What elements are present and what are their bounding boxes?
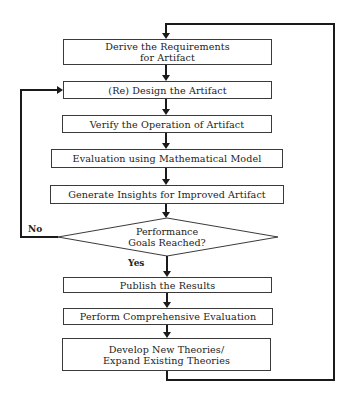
- node-verify-operation: Verify the Operation of Artifact: [62, 115, 272, 133]
- node-derive-line-1: Derive the Requirements: [105, 41, 230, 52]
- node-publish-results: Publish the Results: [63, 277, 272, 293]
- node-verify-line-1: Verify the Operation of Artifact: [90, 119, 245, 130]
- arrow-derive-to-design: [162, 65, 170, 81]
- decision-line-2: Goals Reached?: [107, 237, 227, 248]
- node-publish-line-1: Publish the Results: [120, 280, 216, 291]
- node-theories-line-2: Expand Existing Theories: [103, 355, 230, 366]
- node-evaluation-math-model: Evaluation using Mathematical Model: [51, 149, 283, 168]
- node-derive-requirements: Derive the Requirements for Artifact: [63, 39, 272, 65]
- node-generate-insights: Generate Insights for Improved Artifact: [50, 185, 284, 204]
- arrow-design-to-verify: [162, 99, 170, 115]
- decision-text: Performance Goals Reached?: [107, 226, 227, 248]
- decision-line-1: Performance: [107, 226, 227, 237]
- arrow-evaluate-to-insights: [162, 168, 170, 185]
- node-comprehensive-line-1: Perform Comprehensive Evaluation: [80, 311, 256, 322]
- flowchart-canvas: Derive the Requirements for Artifact (Re…: [0, 0, 351, 395]
- arrow-comprehensive-to-theories: [163, 325, 171, 338]
- node-evaluate-line-1: Evaluation using Mathematical Model: [73, 153, 262, 164]
- node-insights-line-1: Generate Insights for Improved Artifact: [68, 189, 266, 200]
- arrow-decision-to-publish: [163, 256, 171, 277]
- node-theories-line-1: Develop New Theories/: [109, 344, 224, 355]
- node-develop-theories: Develop New Theories/ Expand Existing Th…: [62, 338, 271, 371]
- arrow-insights-to-decision: [162, 204, 170, 218]
- node-design-line-1: (Re) Design the Artifact: [108, 85, 226, 96]
- arrow-publish-to-comprehensive: [163, 292, 171, 308]
- label-yes: Yes: [128, 258, 144, 268]
- node-redesign-artifact: (Re) Design the Artifact: [63, 81, 272, 99]
- node-comprehensive-evaluation: Perform Comprehensive Evaluation: [63, 308, 273, 325]
- node-derive-line-2: for Artifact: [140, 52, 195, 63]
- label-no: No: [28, 224, 42, 234]
- arrow-verify-to-evaluate: [162, 133, 170, 149]
